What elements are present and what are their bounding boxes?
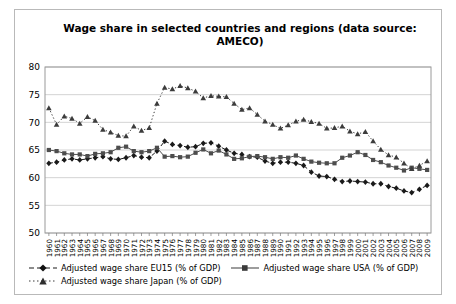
data-point [139,150,143,154]
data-point [363,153,367,157]
data-point [309,119,315,124]
data-point [170,86,176,91]
data-point [285,122,291,127]
data-point [46,105,52,110]
data-point [316,121,322,126]
data-point [70,152,74,156]
data-point [101,151,105,155]
data-point [54,149,58,153]
data-point [347,178,352,184]
data-point [363,129,369,134]
data-point [394,185,399,191]
data-point [262,118,268,123]
data-point [178,143,183,149]
data-point [347,128,353,133]
data-point [193,144,198,150]
data-point [293,160,298,166]
legend-row-2: Adjusted wage share Japan (% of GDP) [28,275,428,287]
data-point [409,190,414,196]
data-point [240,156,244,160]
y-axis-tick-label: 75 [29,90,40,100]
data-point [332,125,338,130]
data-point [402,168,406,172]
data-point [185,144,190,150]
data-point [62,151,66,155]
data-point [302,157,306,161]
data-point [348,153,352,157]
data-point [394,166,398,170]
data-point [270,160,275,166]
data-point [325,161,329,165]
data-point [85,114,91,119]
data-point [309,160,313,164]
data-point [147,155,152,161]
legend-item-usa[interactable]: Adjusted wage share USA (% of GDP) [230,262,418,274]
data-point [62,113,68,118]
data-point [69,156,74,162]
data-point [170,154,174,158]
data-point [363,179,368,185]
data-point [108,129,114,134]
legend-symbol-eu15 [28,263,58,273]
data-point [77,157,82,163]
data-point [162,85,168,90]
data-point [247,105,253,110]
data-point [109,150,113,154]
chart-legend: Adjusted wage share EU15 (% of GDP) Adju… [28,262,428,287]
data-point [216,143,221,149]
legend-label-eu15: Adjusted wage share EU15 (% of GDP) [61,262,220,274]
data-point [425,183,430,189]
legend-symbol-japan [28,276,58,286]
data-point [294,153,298,157]
data-point [209,151,213,155]
y-axis-tick-label: 70 [29,118,41,128]
data-point [85,154,89,158]
data-point [401,188,406,194]
data-point [278,159,283,165]
data-point [46,160,51,166]
legend-item-japan[interactable]: Adjusted wage share Japan (% of GDP) [28,275,222,287]
data-point [386,152,392,157]
y-axis-tick-label: 80 [29,62,41,72]
legend-label-japan: Adjusted wage share Japan (% of GDP) [61,275,222,287]
data-point [417,186,422,192]
x-axis-tick-label: 2009 [423,239,432,258]
data-point [424,158,430,163]
data-point [224,147,229,153]
legend-row-1: Adjusted wage share EU15 (% of GDP) Adju… [28,262,428,274]
data-point [47,148,51,152]
data-point [146,125,152,130]
data-point [54,159,59,165]
data-point [123,155,128,161]
data-point [193,89,199,94]
data-point [217,148,221,152]
data-point [177,83,183,88]
data-point [201,140,206,146]
y-axis-tick-label: 65 [29,145,40,155]
data-point [201,147,205,151]
chart-container: Wage share in selected countries and reg… [14,9,442,295]
data-point [123,133,129,138]
data-point [247,155,251,159]
y-axis-tick-label: 60 [29,173,41,183]
data-point [178,155,182,159]
legend-symbol-usa [230,263,260,273]
data-point [116,157,121,163]
data-point [386,184,391,190]
data-point [232,150,237,156]
data-point [393,154,399,159]
data-point [163,155,167,159]
data-point [324,126,330,131]
data-point [186,155,190,159]
series-line [49,141,427,192]
series-0 [46,138,429,195]
legend-label-usa: Adjusted wage share USA (% of GDP) [263,262,418,274]
legend-item-eu15[interactable]: Adjusted wage share EU15 (% of GDP) [28,262,220,274]
data-point [371,158,375,162]
data-point [301,117,307,122]
data-point [232,157,236,161]
data-point [379,160,383,164]
data-point [92,118,98,123]
y-axis-tick-label: 55 [29,201,40,211]
data-point [340,156,344,160]
